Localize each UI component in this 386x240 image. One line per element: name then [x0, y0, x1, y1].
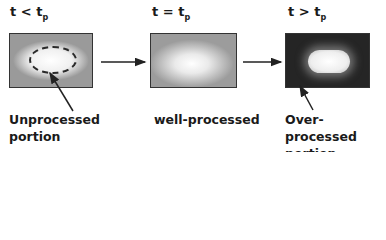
pointer-arrow-icon	[50, 73, 73, 111]
caption-well-processed: well-processed	[154, 111, 260, 128]
caption-over-processed: Over-processedportion	[285, 111, 386, 152]
caption-unprocessed: Unprocessedportion	[9, 111, 100, 145]
pointer-arrow-icon	[300, 86, 313, 110]
